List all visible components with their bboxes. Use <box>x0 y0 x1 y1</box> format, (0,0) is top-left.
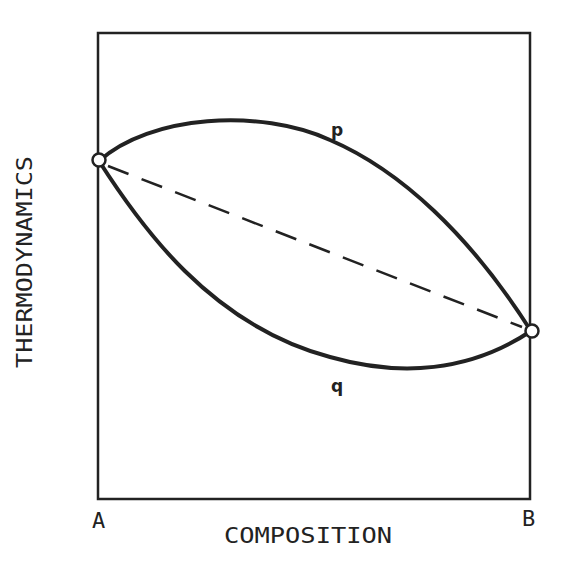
thermodynamics-composition-diagram: p q A B COMPOSITION THERMODYNAMICS <box>0 0 563 568</box>
endpoint-a-circle-icon <box>93 154 106 167</box>
x-axis-title: COMPOSITION <box>224 523 392 548</box>
curve-q-label: q <box>331 376 343 396</box>
endpoint-b-label: B <box>522 506 535 531</box>
y-axis-title: THERMODYNAMICS <box>12 156 37 368</box>
curve-p-label: p <box>331 120 343 140</box>
endpoint-b-circle-icon <box>526 325 539 338</box>
plot-frame <box>98 33 530 499</box>
chord-dashed-line <box>108 166 522 327</box>
curve-q <box>99 161 531 368</box>
endpoint-a-label: A <box>92 508 105 533</box>
curve-p <box>99 120 531 331</box>
